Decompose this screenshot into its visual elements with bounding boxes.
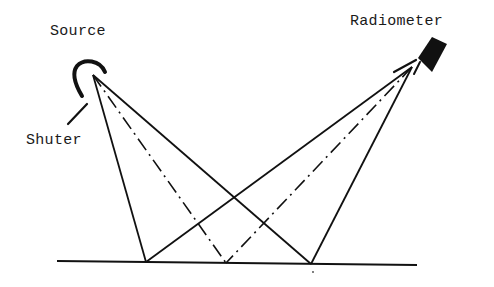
radiometer-label: Radiometer <box>350 14 443 29</box>
source-label: Source <box>50 24 106 39</box>
radiometer-ray-right <box>311 67 412 264</box>
radiometer-detector-icon <box>394 37 447 74</box>
surface-mark <box>312 271 314 273</box>
radiometer-ray-left <box>146 67 412 262</box>
shutter-arm-icon <box>68 104 87 124</box>
lamp-reflector-icon <box>74 61 105 96</box>
source-ray-left <box>93 75 146 262</box>
shutter-label: Shuter <box>26 133 82 148</box>
source-ray-right <box>93 75 311 264</box>
radiometer-ray-center <box>226 67 412 263</box>
source-ray-center <box>93 75 226 263</box>
ground-surface-line <box>57 261 417 265</box>
